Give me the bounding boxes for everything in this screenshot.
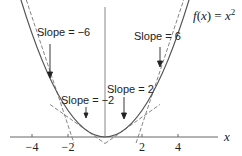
x-axis-label: x [223,129,230,144]
annotation-slope-6: Slope = 6 [134,30,181,42]
annotation-slope-neg2: Slope = −2 [61,94,114,106]
tick-label-2: 2 [139,140,145,154]
parabola-tangent-chart: −4 −2 2 4 x Slope = −6 Slope = −2 Slope … [0,0,242,156]
function-label: f(x) = x2 [193,7,235,23]
annotation-slope-2: Slope = 2 [107,83,154,95]
tangent-slope-6 [136,0,184,143]
tangent-slope-2 [105,105,160,144]
arrow-head-icon [84,113,88,118]
tick-label-4: 4 [175,140,181,154]
tick-label-neg2: −2 [62,140,75,154]
tick-label-neg4: −4 [26,140,39,154]
arrow-head-icon [122,113,127,119]
tangent-slope-neg2 [50,105,105,144]
annotation-slope-neg6: Slope = −6 [37,26,90,38]
